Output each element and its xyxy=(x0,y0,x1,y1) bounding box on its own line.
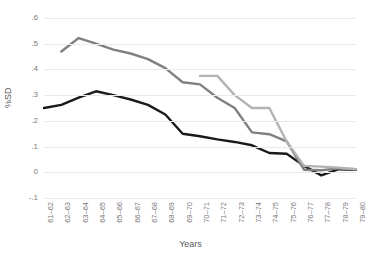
series-light-gray xyxy=(200,76,356,169)
y-axis-tick-label: .1 xyxy=(31,143,38,151)
x-axis-tick-label: 62–63 xyxy=(68,181,76,202)
x-axis-tick-label: 75–76 xyxy=(293,181,301,202)
plot-area: .6.5.4.3.2.10-.161–6262–6363–6464–6565–6… xyxy=(44,18,356,198)
y-axis-tick-label: .3 xyxy=(31,91,38,99)
line-chart: %SD .6.5.4.3.2.10-.161–6262–6363–6464–65… xyxy=(0,0,381,258)
x-axis-tick-label: 61–62 xyxy=(50,181,58,202)
x-axis-title: Years xyxy=(0,240,381,249)
x-axis-tick-label: 70–71 xyxy=(206,181,214,202)
series-black xyxy=(44,91,356,175)
y-axis-tick-label: 0 xyxy=(34,168,38,176)
x-axis-tick-label: 69–70 xyxy=(189,181,197,202)
gridline xyxy=(44,44,356,45)
y-axis-title: %SD xyxy=(4,87,13,108)
x-axis-tick-label: 76–77 xyxy=(310,181,318,202)
series-lines xyxy=(44,18,356,198)
y-axis-tick-label: .5 xyxy=(31,40,38,48)
x-axis-tick-label: 79–80 xyxy=(362,181,370,202)
y-axis-tick-label: -.1 xyxy=(29,194,38,202)
x-axis-tick-label: 65–66 xyxy=(120,181,128,202)
x-axis-tick-label: 74–75 xyxy=(276,181,284,202)
y-axis-tick-label: .2 xyxy=(31,117,38,125)
gridline xyxy=(44,147,356,148)
gridline xyxy=(44,18,356,19)
x-axis-tick-label: 77–78 xyxy=(328,181,336,202)
x-axis-tick-label: 64–65 xyxy=(102,181,110,202)
gridline xyxy=(44,95,356,96)
x-axis-tick-label: 63–64 xyxy=(85,181,93,202)
series-dark-gray xyxy=(61,38,356,170)
x-axis-tick-label: 72–73 xyxy=(241,181,249,202)
y-axis-tick-label: .6 xyxy=(31,14,38,22)
gridline xyxy=(44,69,356,70)
x-axis-tick-label: 66–67 xyxy=(137,181,145,202)
x-axis-tick-label: 67–68 xyxy=(154,181,162,202)
x-axis-tick-label: 73–74 xyxy=(258,181,266,202)
gridline xyxy=(44,121,356,122)
x-axis-tick-label: 78–79 xyxy=(345,181,353,202)
x-axis-tick-label: 68–69 xyxy=(172,181,180,202)
x-axis-tick-label: 71–72 xyxy=(224,181,232,202)
gridline xyxy=(44,172,356,173)
y-axis-tick-label: .4 xyxy=(31,65,38,73)
